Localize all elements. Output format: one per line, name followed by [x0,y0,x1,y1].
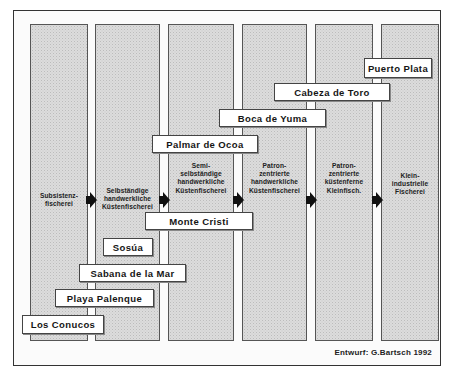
stage-label-3: Semi- selbständige handwerkliche Küstenf… [168,162,234,195]
place-palmar-de-ocoa: Palmar de Ocoa [152,135,258,153]
stage-label-4: Patron- zentrierte handwerkliche Küstenf… [242,162,307,195]
place-sabana-de-la-mar: Sabana de la Mar [79,264,186,282]
arrow-right-icon [376,192,383,208]
place-los-conucos: Los Conucos [22,315,104,334]
place-playa-palenque: Playa Palenque [55,289,154,307]
place-cabeza-de-toro: Cabeza de Toro [274,83,390,101]
stage-label-6: Klein- industrielle Fischerei [381,172,439,197]
author-credit: Entwurf: G.Bartsch 1992 [334,348,432,357]
stage-label-1: Subsistenz- fischerei [30,192,88,208]
place-puerto-plata: Puerto Plata [364,58,432,78]
stage-label-2: Selbständige handwerkliche Küstenfischer… [95,187,160,212]
place-sosua: Sosúa [103,238,153,256]
place-monte-cristi: Monte Cristi [145,212,253,230]
stage-label-5: Patron- zentrierte küstenferne Kleinfisc… [315,162,373,195]
arrow-right-icon [310,192,317,208]
arrow-right-icon [163,192,170,208]
arrow-right-icon [90,192,97,208]
arrow-right-icon [237,192,244,208]
place-boca-de-yuma: Boca de Yuma [219,109,326,127]
